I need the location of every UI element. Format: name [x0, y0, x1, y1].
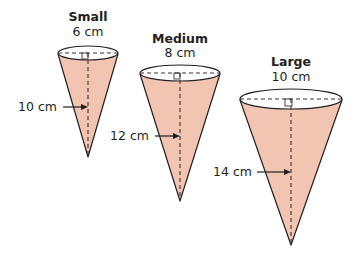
large-cone [240, 89, 342, 245]
large-cone-title: Large [271, 55, 311, 69]
small-cone-diameter-label: 6 cm [73, 25, 104, 39]
small-cone-height-label: 10 cm [18, 100, 57, 114]
small-cone-title: Small [68, 10, 107, 24]
small-cone [58, 46, 118, 157]
medium-cone-diameter-label: 8 cm [165, 46, 196, 60]
medium-cone-height-label: 12 cm [110, 129, 149, 143]
medium-cone [140, 65, 220, 201]
medium-cone-title: Medium [152, 32, 208, 46]
large-cone-diameter-label: 10 cm [272, 70, 311, 84]
large-cone-height-label: 14 cm [213, 165, 252, 179]
